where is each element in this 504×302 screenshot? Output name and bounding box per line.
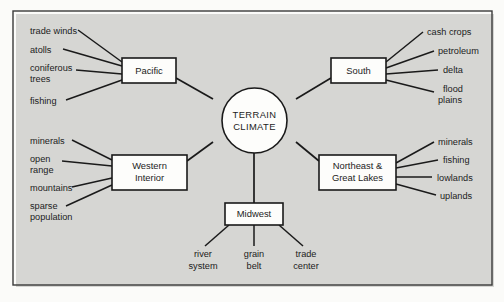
leaf-label-minerals-western: minerals <box>30 136 65 146</box>
leaf-label-mountains: mountains <box>30 183 73 193</box>
leaf-label-trade-center-line2: center <box>293 261 319 271</box>
leaf-label-coniferous-trees-line1: coniferous <box>30 63 73 73</box>
diagram-page: TERRAIN CLIMATE Pacific South Western In… <box>0 0 504 302</box>
leaf-label-petroleum: petroleum <box>438 46 479 56</box>
node-label-western-interior-line1: Western <box>132 160 167 171</box>
center-label-line1: TERRAIN <box>233 109 277 120</box>
node-label-midwest: Midwest <box>237 208 272 219</box>
leaf-label-delta: delta <box>443 65 464 75</box>
leaf-label-open-range-line2: range <box>30 165 54 175</box>
concept-map-svg: TERRAIN CLIMATE Pacific South Western In… <box>0 0 504 302</box>
leaf-label-open-range-line1: open <box>30 154 50 164</box>
leaf-label-atolls: atolls <box>30 45 52 55</box>
node-label-pacific: Pacific <box>135 65 163 76</box>
leaf-label-trade-winds: trade winds <box>30 26 77 36</box>
center-label-line2: CLIMATE <box>233 121 276 132</box>
leaf-label-river-system-line1: river <box>194 249 212 259</box>
node-label-northeast-line1: Northeast & <box>333 160 383 171</box>
leaf-label-minerals-northeast: minerals <box>438 137 473 147</box>
leaf-label-flood-plains-line1: flood <box>443 84 463 94</box>
leaf-label-coniferous-trees-line2: trees <box>30 74 51 84</box>
leaf-label-grain-belt-line2: belt <box>247 261 262 271</box>
leaf-label-river-system-line2: system <box>188 261 217 271</box>
leaf-label-lowlands: lowlands <box>437 173 473 183</box>
node-label-western-interior-line2: Interior <box>135 172 164 183</box>
node-label-south: South <box>346 65 371 76</box>
leaf-label-uplands: uplands <box>440 191 473 201</box>
leaf-label-fishing-pacific: fishing <box>30 96 57 106</box>
leaf-label-sparse-population-line2: population <box>30 212 72 222</box>
leaf-label-flood-plains-line2: plains <box>438 95 462 105</box>
leaf-label-sparse-population-line1: sparse <box>30 201 58 211</box>
leaf-label-grain-belt-line1: grain <box>244 249 264 259</box>
leaf-label-cash-crops: cash crops <box>427 27 472 37</box>
leaf-label-trade-center-line1: trade <box>296 249 317 259</box>
node-label-northeast-line2: Great Lakes <box>332 172 383 183</box>
leaf-label-fishing-northeast: fishing <box>443 155 470 165</box>
